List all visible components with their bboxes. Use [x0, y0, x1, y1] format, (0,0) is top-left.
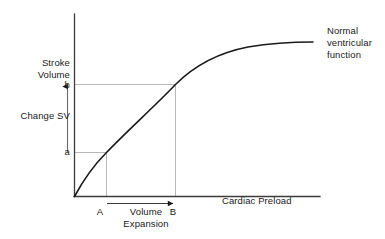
change-sv-label: Change SV [4, 110, 70, 122]
x-marker-label-a: A [93, 206, 107, 218]
volume-expansion-label: Volume Expansion [110, 206, 182, 230]
axes [74, 14, 320, 197]
y-axis-title: Stroke Volume [8, 57, 70, 81]
frank-starling-figure: Stroke Volume b a Change SV Cardiac Prel… [0, 0, 385, 239]
guide-lines [75, 85, 177, 197]
y-tick-label-b: b [30, 79, 70, 91]
x-axis-title: Cardiac Preload [222, 195, 332, 207]
y-tick-label-a: a [30, 146, 70, 158]
ventricular-function-curve [75, 42, 314, 197]
curve-annotation-label: Normal ventricular function [327, 25, 385, 61]
